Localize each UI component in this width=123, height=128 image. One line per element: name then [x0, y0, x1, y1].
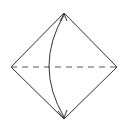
paper-square	[11, 13, 117, 119]
fold-arrow-arc	[49, 15, 64, 117]
origami-diagram	[0, 0, 123, 128]
